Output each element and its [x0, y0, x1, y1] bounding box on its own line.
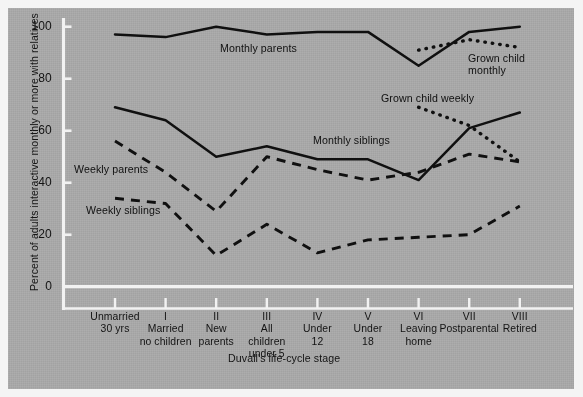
series-annotation-0: Monthly parents	[220, 42, 297, 55]
series-annotation-6: Grown child weekly	[381, 92, 474, 105]
figure-canvas: Percent of adults interactive monthly or…	[0, 0, 583, 397]
series-annotation-2: Weekly parents	[74, 163, 148, 176]
series-line-weekly-parents	[115, 141, 520, 211]
series-annotation-1: Monthly siblings	[313, 134, 390, 147]
series-annotation-3: Weekly siblings	[86, 204, 160, 217]
series-annotation-4: Grown child	[468, 52, 525, 65]
series-line-grown-child-monthly	[419, 40, 520, 50]
series-annotation-5: monthly	[468, 64, 506, 77]
series-line-weekly-siblings	[115, 198, 520, 255]
series-line-monthly-parents	[115, 27, 520, 66]
